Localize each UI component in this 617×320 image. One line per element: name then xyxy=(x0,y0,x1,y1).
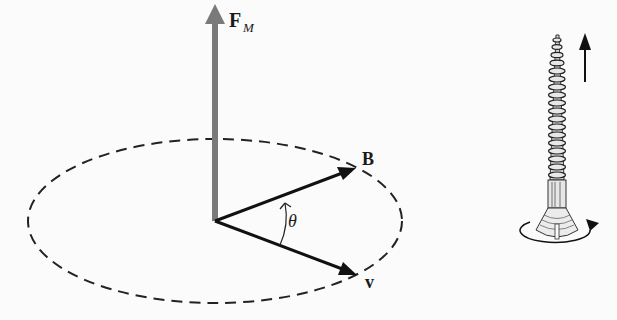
angle-label: θ xyxy=(288,211,297,231)
velocity-vector-arrow xyxy=(215,221,357,275)
force-vector-arrow xyxy=(205,4,225,221)
translation-arrow-up-icon xyxy=(579,33,591,82)
screw-illustration xyxy=(536,35,578,239)
force-label: F xyxy=(229,9,241,31)
velocity-label: v xyxy=(365,272,374,292)
field-vector-arrow xyxy=(215,167,356,221)
diagram-canvas: F M B v θ xyxy=(0,0,617,320)
field-label: B xyxy=(362,149,374,169)
force-label-subscript: M xyxy=(242,20,255,35)
